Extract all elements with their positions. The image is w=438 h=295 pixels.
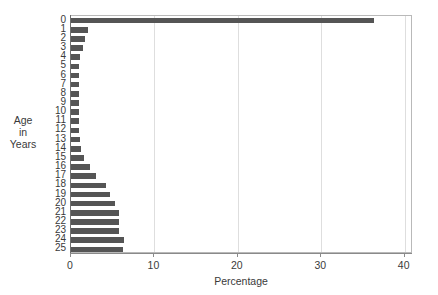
x-axis-line (70, 253, 412, 254)
x-tick-mark (320, 253, 321, 257)
chart-figure: 0123456789101112131415161718192021222324… (0, 0, 438, 295)
y-tick-label: 25 (46, 243, 66, 253)
y-axis-title-line: Years (2, 138, 44, 150)
x-tick-mark (70, 253, 71, 257)
y-axis-title-line: Age (2, 114, 44, 126)
x-tick-mark (404, 253, 405, 257)
x-tick-mark (153, 253, 154, 257)
x-tick-label: 0 (55, 259, 85, 271)
x-tick-label: 40 (389, 259, 419, 271)
y-tick-labels: 0123456789101112131415161718192021222324… (0, 0, 438, 295)
x-tick-label: 30 (305, 259, 335, 271)
x-tick-label: 10 (138, 259, 168, 271)
x-axis-title: Percentage (70, 275, 412, 287)
x-tick-mark (237, 253, 238, 257)
y-axis-title-line: in (2, 126, 44, 138)
y-axis-title: AgeinYears (2, 114, 44, 150)
x-tick-label: 20 (222, 259, 252, 271)
